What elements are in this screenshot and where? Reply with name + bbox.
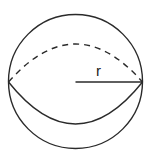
sphere-svg: r <box>0 0 149 162</box>
sphere-diagram: r <box>0 0 149 162</box>
equator-front-arc <box>9 82 143 124</box>
equator-back-arc-dashed <box>9 44 143 82</box>
radius-label: r <box>96 62 101 79</box>
